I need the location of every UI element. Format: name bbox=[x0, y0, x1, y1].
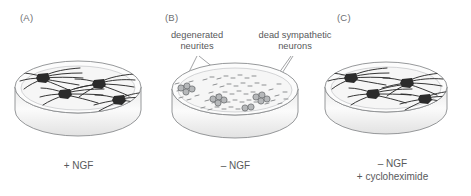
panel-c: (C) bbox=[314, 0, 471, 196]
caption-a: + NGF bbox=[0, 160, 157, 173]
petri-dish-a bbox=[0, 52, 157, 152]
panel-letter-a: (A) bbox=[20, 12, 33, 23]
panel-a: (A) bbox=[0, 0, 157, 196]
panel-letter-c: (C) bbox=[337, 12, 351, 23]
caption-b: – NGF bbox=[157, 160, 314, 173]
caption-c: – NGF + cycloheximide bbox=[314, 158, 471, 183]
dish-illustration-a bbox=[0, 52, 157, 152]
petri-dish-b bbox=[157, 56, 314, 156]
panel-b: (B) degenerated neurites dead sympatheti… bbox=[157, 0, 314, 196]
dish-illustration-b bbox=[157, 56, 314, 156]
dish-illustration-c bbox=[314, 52, 471, 152]
petri-dish-c bbox=[314, 52, 471, 152]
